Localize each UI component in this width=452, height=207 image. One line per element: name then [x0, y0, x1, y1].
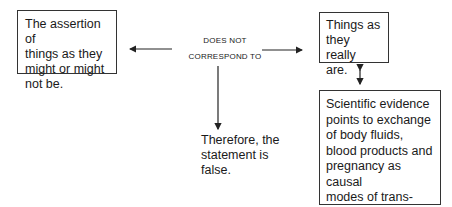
reality-box: Things as they really are.	[319, 12, 389, 63]
assertion-text: The assertion of things as they might or…	[25, 17, 109, 92]
evidence-box: Scientific evidence points to exchange o…	[319, 90, 441, 205]
reality-text: Things as they really are.	[326, 18, 382, 78]
relation-label-line2: CORRESPOND TO	[175, 49, 275, 65]
relation-label-line1: DOES NOT	[175, 33, 275, 49]
evidence-text: Scientific evidence points to exchange o…	[326, 97, 434, 207]
assertion-box: The assertion of things as they might or…	[17, 10, 117, 74]
relation-label: DOES NOT CORRESPOND TO	[175, 33, 275, 65]
conclusion-text: Therefore, the statement is false.	[201, 133, 311, 178]
